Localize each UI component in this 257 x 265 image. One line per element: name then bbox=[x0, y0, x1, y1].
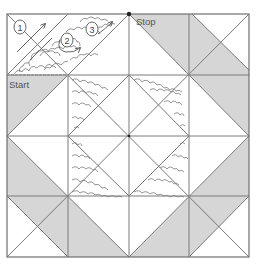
stop-label: Stop bbox=[136, 16, 156, 27]
start-label: Start bbox=[9, 79, 29, 90]
quilt-block-diagram: 1 2 3 Stop Start bbox=[0, 0, 257, 265]
stop-dot-icon bbox=[127, 12, 131, 16]
center-dot-icon bbox=[128, 135, 131, 138]
step-2-marker: 2 bbox=[61, 33, 73, 47]
step-3-marker: 3 bbox=[86, 22, 98, 36]
step-3-number: 3 bbox=[89, 25, 94, 35]
step-1-marker: 1 bbox=[14, 20, 26, 34]
step-1-number: 1 bbox=[17, 23, 22, 33]
step-2-number: 2 bbox=[64, 36, 69, 46]
